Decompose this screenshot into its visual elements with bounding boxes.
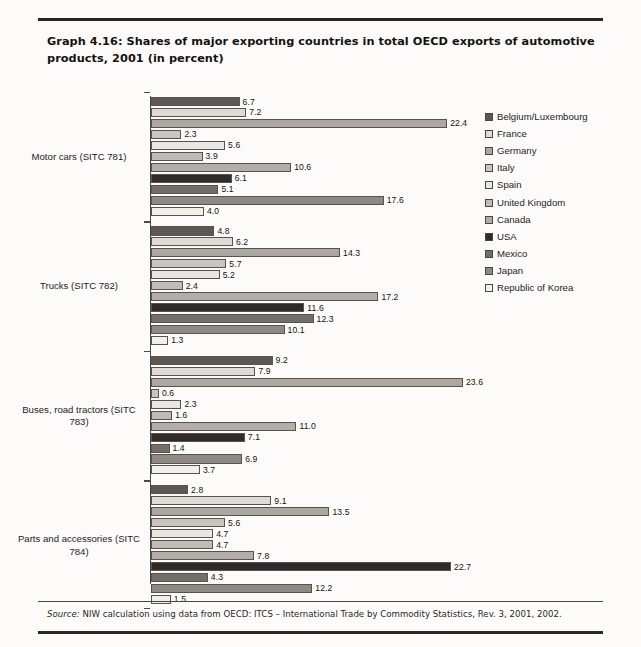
bar-row: 1.6 [151, 411, 611, 420]
bar [151, 237, 233, 246]
bar-row: 7.1 [151, 433, 611, 442]
bar [151, 529, 213, 538]
bar-value-label: 5.6 [225, 140, 240, 150]
bar [151, 130, 181, 139]
bar-row: 12.2 [151, 584, 611, 593]
bar-value-label: 7.1 [245, 432, 260, 442]
bar [151, 562, 451, 571]
bar-row: 1.3 [151, 336, 611, 345]
legend-item[interactable]: Canada [485, 211, 635, 228]
legend-label: Republic of Korea [497, 283, 573, 293]
bar [151, 259, 226, 268]
category-label: Motor cars (SITC 781) [15, 151, 143, 164]
legend-label: Germany [497, 146, 536, 156]
bar [151, 367, 255, 376]
bar-value-label: 17.6 [384, 195, 404, 205]
legend-label: France [497, 129, 527, 139]
legend-item[interactable]: France [485, 125, 635, 142]
bar-value-label: 5.6 [225, 518, 240, 528]
legend-item[interactable]: Spain [485, 177, 635, 194]
bar [151, 207, 204, 216]
bar-value-label: 5.2 [220, 270, 235, 280]
bar [151, 507, 329, 516]
legend-label: Mexico [497, 249, 527, 259]
bar-value-label: 4.0 [204, 206, 219, 216]
axis-tick [144, 221, 150, 222]
bar [151, 163, 291, 172]
bar-row: 22.7 [151, 562, 611, 571]
bar-value-label: 11.0 [296, 421, 316, 431]
legend-swatch-icon [485, 233, 493, 241]
legend-item[interactable]: Belgium/Luxembourg [485, 108, 635, 125]
category-label: Parts and accessories (SITC 784) [15, 533, 143, 558]
bar [151, 356, 273, 365]
bar [151, 108, 246, 117]
chart-legend: Belgium/LuxembourgFranceGermanyItalySpai… [485, 108, 635, 297]
bar-row: 2.3 [151, 400, 611, 409]
bar [151, 485, 188, 494]
bar-value-label: 9.2 [273, 355, 288, 365]
bar-value-label: 4.7 [213, 529, 228, 539]
top-rule [38, 18, 603, 21]
bar [151, 303, 304, 312]
bar [151, 248, 340, 257]
source-note: Source: NIW calculation using data from … [47, 609, 607, 619]
bar-row: 7.8 [151, 551, 611, 560]
bar-value-label: 7.8 [254, 551, 269, 561]
bar [151, 584, 312, 593]
bar [151, 595, 171, 604]
bar [151, 152, 203, 161]
bar [151, 454, 242, 463]
bar-value-label: 1.5 [171, 594, 186, 604]
legend-item[interactable]: Italy [485, 160, 635, 177]
bar-row: 9.2 [151, 356, 611, 365]
bar [151, 292, 378, 301]
bar-value-label: 14.3 [340, 248, 360, 258]
legend-label: Italy [497, 163, 515, 173]
bar-value-label: 12.2 [312, 583, 332, 593]
bar [151, 444, 170, 453]
legend-item[interactable]: USA [485, 228, 635, 245]
source-separator-rule [38, 601, 603, 602]
bar-value-label: 6.1 [232, 173, 247, 183]
bar-row: 23.6 [151, 378, 611, 387]
bar-row: 3.7 [151, 465, 611, 474]
bar-value-label: 3.9 [203, 151, 218, 161]
bar-row: 4.7 [151, 540, 611, 549]
legend-item[interactable]: Republic of Korea [485, 280, 635, 297]
bar [151, 174, 232, 183]
bar-value-label: 11.6 [304, 303, 324, 313]
legend-swatch-icon [485, 216, 493, 224]
legend-swatch-icon [485, 250, 493, 258]
legend-item[interactable]: Germany [485, 142, 635, 159]
bar-value-label: 23.6 [463, 377, 483, 387]
bar-row: 0.6 [151, 389, 611, 398]
category-label: Buses, road tractors (SITC 783) [15, 404, 143, 429]
legend-swatch-icon [485, 130, 493, 138]
bar-value-label: 9.1 [271, 496, 286, 506]
legend-label: USA [497, 232, 517, 242]
legend-label: Canada [497, 215, 531, 225]
bar-value-label: 6.2 [233, 237, 248, 247]
bar [151, 314, 314, 323]
bar [151, 400, 181, 409]
bar-row: 10.1 [151, 325, 611, 334]
legend-item[interactable]: Mexico [485, 246, 635, 263]
bar-row: 11.0 [151, 422, 611, 431]
bar [151, 281, 183, 290]
legend-item[interactable]: United Kingdom [485, 194, 635, 211]
legend-label: United Kingdom [497, 198, 565, 208]
bar-value-label: 7.2 [246, 107, 261, 117]
bar [151, 226, 214, 235]
bar-value-label: 2.3 [181, 129, 196, 139]
bar-value-label: 17.2 [378, 292, 398, 302]
bar-row: 12.3 [151, 314, 611, 323]
bar-row: 1.4 [151, 444, 611, 453]
legend-item[interactable]: Japan [485, 263, 635, 280]
legend-swatch-icon [485, 113, 493, 121]
legend-swatch-icon [485, 164, 493, 172]
bar [151, 518, 225, 527]
legend-label: Japan [497, 266, 523, 276]
bar [151, 325, 285, 334]
axis-tick [144, 351, 150, 352]
